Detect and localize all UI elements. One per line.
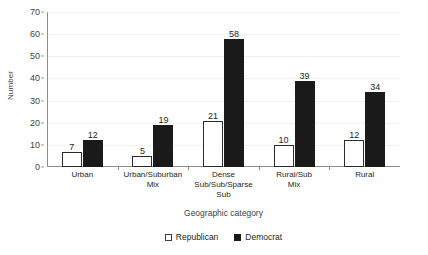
bar-value-label: 39	[300, 71, 310, 81]
y-axis-tick-label: 30	[30, 96, 40, 106]
bar-republican[interactable]: 7	[62, 152, 82, 168]
x-axis-category-label: DenseSub/Sub/SparseSub	[188, 170, 259, 200]
x-axis-category-label: Rural/SubMix	[259, 170, 330, 190]
x-axis-category-label: Rural	[329, 170, 400, 180]
y-axis-tick-mark	[41, 100, 44, 101]
bar-group: 519	[132, 12, 173, 167]
bar-democrat[interactable]: 34	[365, 92, 385, 167]
y-axis-tick-mark	[41, 144, 44, 145]
x-axis-category-label-line: Dense	[188, 170, 259, 180]
legend-item-label: Democrat	[245, 232, 282, 242]
bar-republican[interactable]: 12	[344, 140, 364, 167]
x-axis-category-label: Urban/SuburbanMix	[118, 170, 189, 190]
y-axis-title-text: Number	[7, 70, 16, 99]
bar-democrat[interactable]: 58	[224, 39, 244, 167]
bar-group: 1039	[274, 12, 315, 167]
x-axis-tick-labels: UrbanUrban/SuburbanMixDenseSub/Sub/Spars…	[47, 170, 400, 206]
x-axis-title: Geographic category	[47, 208, 400, 218]
x-axis-category-label-line: Mix	[118, 180, 189, 190]
x-axis-category-label-line: Rural	[329, 170, 400, 180]
bar-group: 2158	[203, 12, 244, 167]
y-axis-tick-mark	[41, 56, 44, 57]
bar-democrat[interactable]: 12	[83, 140, 103, 167]
bar-group: 1234	[344, 12, 385, 167]
legend-item-republican[interactable]: Republican	[165, 232, 219, 242]
bar-democrat[interactable]: 19	[153, 125, 173, 167]
legend-item-label: Republican	[176, 232, 219, 242]
y-axis-tick-label: 40	[30, 73, 40, 83]
chart-legend: RepublicanDemocrat	[47, 232, 400, 242]
y-axis-title: Number	[0, 0, 22, 170]
y-axis-tick-label: 50	[30, 51, 40, 61]
y-axis-tick-label: 60	[30, 29, 40, 39]
x-axis-category-label-line: Mix	[259, 180, 330, 190]
y-axis-tick-mark	[41, 167, 44, 168]
y-axis-tick-mark	[41, 12, 44, 13]
bar-value-label: 5	[140, 146, 145, 156]
x-axis-category-label-line: Urban	[47, 170, 118, 180]
bar-value-label: 12	[349, 130, 359, 140]
y-axis-tick-mark	[41, 78, 44, 79]
bar-value-label: 7	[69, 142, 74, 152]
x-axis-category-label: Urban	[47, 170, 118, 180]
y-axis-tick-mark	[41, 122, 44, 123]
bar-value-label: 12	[88, 130, 98, 140]
y-axis-tick-mark	[41, 34, 44, 35]
bar-value-label: 21	[208, 111, 218, 121]
x-axis-category-label-line: Urban/Suburban	[118, 170, 189, 180]
x-axis-category-label-line: Sub	[188, 190, 259, 200]
bar-republican[interactable]: 21	[203, 121, 223, 168]
y-axis-tick-label: 0	[35, 162, 40, 172]
bar-group: 712	[62, 12, 103, 167]
bar-value-label: 34	[370, 82, 380, 92]
bar-republican[interactable]: 10	[274, 145, 294, 167]
bar-republican[interactable]: 5	[132, 156, 152, 167]
legend-item-democrat[interactable]: Democrat	[234, 232, 282, 242]
x-axis-category-label-line: Rural/Sub	[259, 170, 330, 180]
filled-square-icon	[234, 234, 241, 241]
y-axis-tick-labels: 010203040506070	[22, 12, 44, 167]
bar-value-label: 58	[229, 29, 239, 39]
plot-area: 712519215810391234	[47, 12, 400, 167]
bars-layer: 712519215810391234	[47, 12, 400, 167]
bar-chart: Number 010203040506070 71251921581039123…	[0, 0, 428, 255]
open-square-icon	[165, 234, 172, 241]
bar-value-label: 10	[279, 135, 289, 145]
bar-democrat[interactable]: 39	[295, 81, 315, 167]
bar-value-label: 19	[158, 115, 168, 125]
y-axis-tick-label: 10	[30, 140, 40, 150]
y-axis-tick-label: 20	[30, 118, 40, 128]
y-axis-tick-label: 70	[30, 7, 40, 17]
x-axis-category-label-line: Sub/Sub/Sparse	[188, 180, 259, 190]
